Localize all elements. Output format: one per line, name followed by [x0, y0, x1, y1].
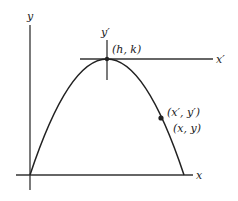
vertex-point [105, 57, 109, 61]
vertex-label: (h, k) [112, 43, 141, 56]
parabola-diagram: y x y′ x′ (h, k) (x′, y′) (x, y) [0, 0, 238, 201]
point-primed-label: (x′, y′) [167, 106, 200, 119]
point-original-label: (x, y) [173, 122, 201, 135]
x-prime-axis-label: x′ [216, 53, 225, 66]
x-axis-label: x [196, 169, 203, 182]
y-prime-axis-label: y′ [100, 26, 110, 39]
y-axis-label: y [26, 10, 34, 23]
curve-point [158, 115, 163, 120]
